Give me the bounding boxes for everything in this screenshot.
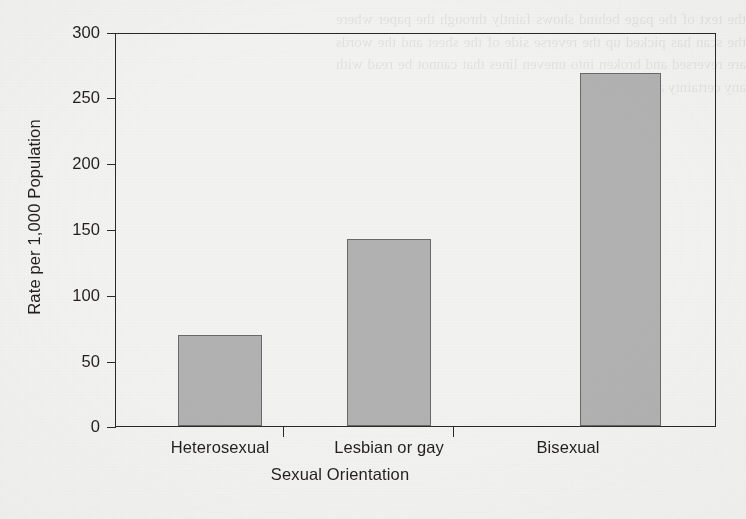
- y-tick-label-100: 100: [30, 287, 100, 304]
- x-category-label-bisexual: Bisexual: [536, 437, 599, 457]
- x-axis-title-wrap: Sexual Orientation: [0, 464, 746, 484]
- y-tick-mark-0: [107, 427, 116, 428]
- y-tick-label-200: 200: [30, 155, 100, 172]
- bar-lesbian-or-gay: [347, 239, 431, 426]
- y-tick-label-150: 150: [30, 221, 100, 238]
- x-category-label-heterosexual: Heterosexual: [171, 437, 269, 457]
- x-axis-title: Sexual Orientation: [271, 465, 409, 483]
- y-tick-label-300: 300: [30, 24, 100, 41]
- y-tick-label-250: 250: [30, 89, 100, 106]
- x-tick-mark-1: [283, 427, 284, 437]
- y-tick-label-0: 0: [30, 418, 100, 435]
- y-tick-label-50: 50: [30, 353, 100, 370]
- x-category-label-lesbian-or-gay: Lesbian or gay: [334, 437, 444, 457]
- x-tick-mark-2: [453, 427, 454, 437]
- plot-area: [115, 33, 716, 427]
- bar-heterosexual: [178, 335, 262, 426]
- y-axis-title: Rate per 1,000 Population: [25, 67, 43, 367]
- bar-bisexual: [580, 73, 661, 426]
- bar-chart-figure: Rate per 1,000 Population 300 250 200 15…: [0, 0, 746, 519]
